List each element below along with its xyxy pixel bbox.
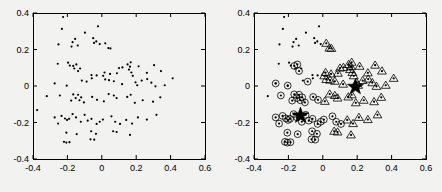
data-point-dot (119, 123, 121, 125)
data-point-dot (137, 116, 139, 118)
data-point-dot (317, 99, 319, 101)
data-point-dot (291, 100, 293, 102)
data-point-dot (96, 74, 98, 76)
data-point-dot (329, 93, 331, 95)
data-point-dot (371, 82, 373, 84)
data-point-dot (154, 85, 156, 87)
data-point-dot (337, 72, 339, 74)
data-point-dot (291, 45, 293, 47)
data-point-dot (292, 41, 294, 43)
data-point-dot (93, 139, 95, 141)
data-point-dot (380, 96, 382, 98)
y-tick-label: -0.2 (234, 118, 250, 128)
data-point-dot (91, 77, 93, 79)
data-point-dot (301, 96, 303, 98)
data-point-dot (80, 121, 82, 123)
data-point-dot (142, 99, 144, 101)
data-point-dot (275, 116, 277, 118)
x-tick-label: -0.2 (281, 163, 297, 173)
data-point-dot (363, 99, 365, 101)
data-point-dot (283, 16, 285, 18)
data-point-dot (90, 130, 92, 132)
data-point-dot (76, 133, 78, 135)
data-point-dot (342, 83, 344, 85)
data-point-dot (103, 71, 105, 73)
y-tick-label: -0.2 (13, 118, 29, 128)
data-point-dot (358, 116, 360, 118)
data-point-dot (324, 100, 326, 102)
data-point-dot (316, 133, 318, 135)
axes-box (34, 14, 206, 160)
data-point-dot (110, 115, 112, 117)
x-tick-label: 0.4 (164, 163, 177, 173)
x-tick-label: -0.4 (25, 163, 41, 173)
data-point-dot (267, 95, 269, 97)
cluster-centroid-star (347, 78, 363, 93)
data-point-dot (102, 75, 104, 77)
data-point-dot (359, 65, 361, 67)
x-tick-label: 0.4 (385, 163, 398, 173)
data-point-dot (351, 94, 353, 96)
data-point-dot (331, 115, 333, 117)
data-point-dot (287, 85, 289, 87)
data-point-dot (367, 72, 369, 74)
data-point-dot (152, 101, 154, 103)
y-tick-label: 0.4 (237, 8, 250, 18)
data-point-dot (73, 67, 75, 69)
data-point-dot (333, 130, 335, 132)
data-point-dot (318, 25, 320, 27)
data-point-dot (109, 47, 111, 49)
data-point-dot (60, 115, 62, 117)
data-point-dot (275, 82, 277, 84)
data-point-dot (296, 63, 298, 65)
y-tick-label: 0 (245, 81, 250, 91)
data-point-dot (278, 43, 280, 45)
left-scatter-svg: -0.4-0.200.20.40.6-0.4-0.200.20.4 (0, 0, 221, 192)
data-point-dot (312, 96, 314, 98)
data-point-dot (313, 37, 315, 39)
data-point-dot (89, 138, 91, 140)
data-point-dot (305, 32, 307, 34)
data-point-dot (75, 97, 77, 99)
x-tick-label: 0.6 (199, 163, 212, 173)
data-point-dot (57, 43, 59, 45)
data-point-dot (71, 113, 73, 115)
data-point-dot (130, 71, 132, 73)
x-tick-label: 0.2 (351, 163, 364, 173)
data-point-dot (330, 47, 332, 49)
data-point-dot (80, 96, 82, 98)
left-axes-frame (33, 13, 206, 160)
data-point-dot (64, 117, 66, 119)
data-point-dot (128, 68, 130, 70)
data-point-dot (334, 80, 336, 82)
right-axes-frame (254, 13, 427, 160)
data-point-dot (75, 63, 77, 65)
data-point-dot (109, 73, 111, 75)
data-point-dot (335, 121, 337, 123)
data-point-dot (68, 118, 70, 120)
data-point-dot (323, 118, 325, 120)
data-point-dot (96, 99, 98, 101)
data-point-dot (130, 94, 132, 96)
data-point-dot (146, 118, 148, 120)
data-point-dot (134, 81, 136, 83)
data-point-dot (84, 32, 86, 34)
data-point-dot (160, 70, 162, 72)
data-point-dot (108, 79, 110, 81)
data-point-dot (127, 63, 129, 65)
data-point-dot (93, 42, 95, 44)
data-point-dot (130, 61, 132, 63)
data-point-dot (289, 141, 291, 143)
data-point-dot (301, 121, 303, 123)
data-point-dot (118, 67, 120, 69)
data-point-dot (374, 64, 376, 66)
data-point-dot (367, 78, 369, 80)
data-point-dot (83, 101, 85, 103)
data-point-dot (96, 123, 98, 125)
data-point-dot (90, 74, 92, 76)
data-point-dot (107, 47, 109, 49)
data-point-dot (54, 116, 56, 118)
data-point-dot (115, 97, 117, 99)
data-point-dot (317, 74, 319, 76)
y-tick-label: 0.2 (16, 45, 29, 55)
